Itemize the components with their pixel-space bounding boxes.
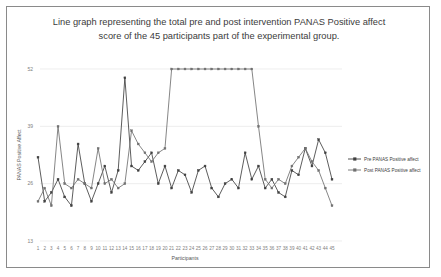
data-point-marker [97, 183, 99, 185]
series-line-pre [38, 78, 332, 206]
data-point-marker [284, 183, 286, 185]
x-axis-tick-label: 4 [57, 246, 60, 251]
x-axis-tick-label: 33 [249, 246, 255, 251]
x-axis-tick-label: 31 [236, 246, 242, 251]
data-point-marker [64, 183, 66, 185]
data-point-marker [137, 169, 139, 171]
x-axis-tick-label: 12 [109, 246, 115, 251]
data-point-marker [204, 68, 206, 70]
x-axis-tick-label: 29 [223, 246, 229, 251]
figure-frame: Line graph representing the total pre an… [6, 6, 430, 268]
data-point-marker [251, 68, 253, 70]
data-point-marker [271, 187, 273, 189]
data-point-marker [298, 156, 300, 158]
x-axis-tick-label: 27 [209, 246, 215, 251]
data-point-marker [244, 68, 246, 70]
data-point-marker [50, 205, 52, 207]
x-axis-tick-label: 18 [149, 246, 155, 251]
data-point-marker [217, 68, 219, 70]
x-axis-tick-label: 2 [43, 246, 46, 251]
data-point-marker [224, 183, 226, 185]
x-axis-tick-label: 5 [63, 246, 66, 251]
data-point-marker [144, 152, 146, 154]
data-point-marker [224, 68, 226, 70]
data-point-marker [144, 161, 146, 163]
data-point-marker [91, 187, 93, 189]
data-point-marker [44, 200, 46, 202]
x-axis-tick-label: 20 [162, 246, 168, 251]
data-point-marker [298, 174, 300, 176]
data-point-marker [37, 156, 39, 158]
data-point-marker [157, 183, 159, 185]
data-point-marker [124, 77, 126, 79]
data-point-marker [291, 169, 293, 171]
data-point-marker [104, 165, 106, 167]
data-point-marker [97, 147, 99, 149]
x-axis-tick-label: 16 [136, 246, 142, 251]
x-axis-tick-label: 43 [316, 246, 322, 251]
data-point-marker [244, 152, 246, 154]
data-point-marker [331, 205, 333, 207]
data-point-marker [278, 178, 280, 180]
x-axis-tick-label: 3 [50, 246, 53, 251]
x-axis-tick-label: 36 [269, 246, 275, 251]
x-axis-tick-label: 39 [289, 246, 295, 251]
data-point-marker [57, 178, 59, 180]
chart-plot-area: 52392613PANAS Positive Affect12345678910… [7, 7, 431, 269]
data-point-marker [258, 165, 260, 167]
data-point-marker [204, 165, 206, 167]
data-point-marker [177, 169, 179, 171]
x-axis-tick-label: 19 [156, 246, 162, 251]
data-point-marker [104, 183, 106, 185]
data-point-marker [70, 205, 72, 207]
data-point-marker [157, 152, 159, 154]
x-axis-tick-label: 7 [77, 246, 80, 251]
data-point-marker [258, 125, 260, 127]
data-point-marker [311, 165, 313, 167]
x-axis-tick-label: 26 [202, 246, 208, 251]
x-axis-tick-label: 1 [37, 246, 40, 251]
data-point-marker [164, 147, 166, 149]
data-point-marker [151, 161, 153, 163]
data-point-marker [184, 68, 186, 70]
data-point-marker [304, 147, 306, 149]
x-axis-tick-label: 6 [70, 246, 73, 251]
data-point-marker [77, 178, 79, 180]
x-axis-tick-label: 22 [176, 246, 182, 251]
y-axis-title: PANAS Positive Affect [16, 129, 22, 181]
x-axis-tick-label: 11 [102, 246, 107, 251]
line-chart: 52392613PANAS Positive Affect12345678910… [7, 7, 431, 269]
data-point-marker [117, 187, 119, 189]
legend-marker-swatch [353, 157, 356, 160]
data-point-marker [57, 125, 59, 127]
x-axis-tick-label: 32 [243, 246, 249, 251]
data-point-marker [291, 165, 293, 167]
x-axis-tick-label: 34 [256, 246, 262, 251]
x-axis-tick-label: 44 [323, 246, 329, 251]
x-axis-tick-label: 15 [129, 246, 135, 251]
x-axis-tick-label: 35 [263, 246, 269, 251]
x-axis-tick-label: 41 [303, 246, 309, 251]
data-point-marker [111, 178, 113, 180]
y-axis-tick-label: 52 [27, 66, 33, 72]
data-point-marker [197, 169, 199, 171]
data-point-marker [324, 187, 326, 189]
legend-item-label: Post PANAS Positive affect [364, 168, 421, 173]
data-point-marker [77, 143, 79, 145]
x-axis-tick-label: 13 [116, 246, 122, 251]
data-point-marker [191, 192, 193, 194]
data-point-marker [211, 187, 213, 189]
data-point-marker [131, 165, 133, 167]
x-axis-title: Participants [171, 255, 199, 261]
data-point-marker [137, 143, 139, 145]
data-point-marker [64, 196, 66, 198]
data-point-marker [231, 178, 233, 180]
data-point-marker [151, 152, 153, 154]
x-axis-tick-label: 25 [196, 246, 202, 251]
x-axis-tick-label: 10 [96, 246, 102, 251]
data-point-marker [171, 187, 173, 189]
x-axis-tick-label: 30 [229, 246, 235, 251]
data-point-marker [318, 139, 320, 141]
data-point-marker [117, 169, 119, 171]
data-point-marker [238, 187, 240, 189]
